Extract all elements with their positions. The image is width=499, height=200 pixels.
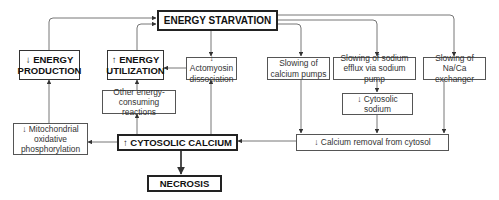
node-naca-exchanger: Slowing of Na/Ca exchanger (423, 57, 486, 80)
node-necrosis: NECROSIS (147, 175, 222, 192)
node-cytosolic-calcium: ↑ CYTOSOLIC CALCIUM (117, 134, 238, 151)
node-label: ↓ Cytosolic sodium (343, 94, 412, 114)
node-other-reactions: Other energy-consuming reactions (102, 90, 176, 114)
node-cytosolic-sodium: ↓ Cytosolic sodium (342, 93, 413, 115)
node-energy-utilization: ↑ ENERGY UTILIZATION (107, 50, 164, 80)
node-actomyosin-dissociation: ↓ Actomyosin dissociation (186, 57, 237, 80)
node-label: ↓ ENERGY PRODUCTION (18, 54, 82, 77)
node-label: ENERGY STARVATION (164, 15, 271, 27)
node-label: NECROSIS (160, 178, 210, 189)
node-label: ↓ Actomyosin dissociation (187, 53, 236, 83)
node-label: Slowing of Na/Ca exchanger (424, 53, 485, 83)
node-calcium-pumps: Slowing of calcium pumps (267, 57, 330, 80)
node-label: ↑ CYTOSOLIC CALCIUM (123, 137, 232, 148)
node-mitochondrial-phosphorylation: ↓ Mitochondrial oxidative phosphorylatio… (13, 123, 88, 155)
node-label: Other energy-consuming reactions (103, 87, 175, 117)
node-energy-production: ↓ ENERGY PRODUCTION (19, 50, 80, 80)
node-label: ↓ Mitochondrial oxidative phosphorylatio… (14, 124, 87, 154)
node-energy-starvation: ENERGY STARVATION (157, 10, 278, 31)
node-label: ↓ Calcium removal from cytosol (314, 137, 430, 147)
node-calcium-removal: ↓ Calcium removal from cytosol (296, 134, 449, 151)
node-sodium-efflux: Slowing of sodium efflux via sodium pump (333, 57, 416, 80)
node-label: Slowing of calcium pumps (268, 58, 329, 78)
node-label: ↑ ENERGY UTILIZATION (106, 54, 164, 77)
node-label: Slowing of sodium efflux via sodium pump (334, 53, 415, 83)
